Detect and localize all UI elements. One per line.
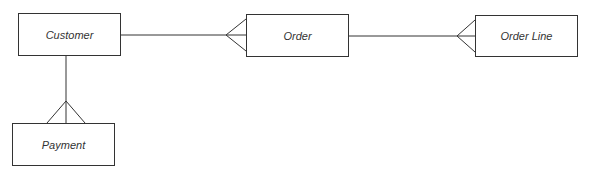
entity-order[interactable]: Order: [246, 14, 349, 57]
entity-label: Order Line: [501, 30, 553, 42]
entity-label: Customer: [46, 29, 94, 41]
entity-payment[interactable]: Payment: [12, 123, 115, 166]
entity-label: Payment: [42, 139, 85, 151]
entity-customer[interactable]: Customer: [18, 13, 121, 56]
entity-label: Order: [283, 30, 311, 42]
entity-order-line[interactable]: Order Line: [475, 15, 578, 57]
